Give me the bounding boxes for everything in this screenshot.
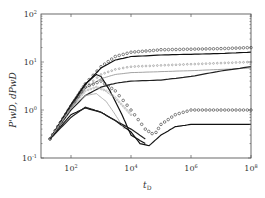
y-tick-label: 101: [24, 57, 37, 68]
y-tick-label: 100: [24, 105, 37, 116]
series-curve-7-hump-markers-dip: [49, 80, 253, 140]
x-tick-label: 102: [64, 163, 77, 174]
series-curve-5-line-lower: [50, 67, 251, 139]
series-curve-9-grey-hump: [50, 94, 124, 139]
x-tick-label: 104: [124, 163, 137, 174]
plot-frame: [41, 14, 251, 158]
x-axis-label: tD: [143, 180, 152, 191]
series-layer: [49, 46, 253, 145]
ticks-layer: [41, 14, 251, 158]
chart: 10210410610810-1100101102 tD P'wD, dPwD: [0, 0, 265, 198]
x-tick-label: 108: [244, 163, 257, 174]
series-curve-6-hump-line: [50, 75, 145, 144]
y-tick-label: 102: [24, 9, 37, 20]
series-curve-4-line-mid: [50, 68, 251, 139]
y-tick-label: 10-1: [22, 153, 37, 164]
series-curve-8-dip-line: [50, 108, 251, 146]
y-axis-label: P'wD, dPwD: [8, 72, 18, 129]
labels-layer: 10210410610810-1100101102: [22, 9, 258, 174]
x-tick-label: 106: [184, 163, 197, 174]
